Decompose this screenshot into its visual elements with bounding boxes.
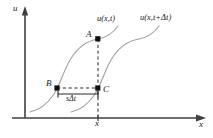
u-axis-label: u — [13, 4, 18, 13]
point-label-b: B — [46, 79, 52, 88]
point-marker-b — [54, 85, 59, 90]
curve-label-u-x-t: u(x,t) — [97, 14, 115, 23]
point-marker-c — [95, 85, 100, 90]
u-axis-arrowhead — [22, 6, 28, 16]
x-axis-label: x — [199, 120, 203, 129]
point-label-c: C — [103, 85, 109, 94]
wave-translation-figure: u x x A B C u(x,t) u(x,t+Δt) sΔt — [0, 0, 213, 138]
point-marker-a — [95, 36, 100, 41]
point-label-a: A — [86, 30, 92, 39]
shift-distance-label: sΔt — [66, 95, 76, 103]
curve-label-u-x-t-plus-delta-t: u(x,t+Δt) — [140, 13, 171, 22]
shift-measure-bar — [58, 91, 98, 98]
x-axis-tick-label: x — [95, 119, 99, 128]
curve-right-ux-t-plus-dt — [71, 26, 159, 112]
